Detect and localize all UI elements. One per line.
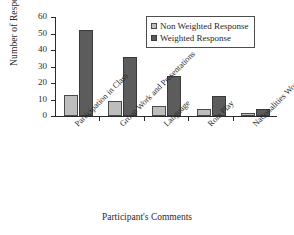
legend-entry-non-weighted-response: Non Weighted Response bbox=[151, 20, 249, 32]
y-axis-title: Number of Responses bbox=[9, 0, 19, 75]
legend-swatch-icon bbox=[151, 35, 157, 41]
x-axis-tick bbox=[188, 117, 189, 121]
bar bbox=[64, 95, 78, 116]
legend-swatch-icon bbox=[151, 23, 157, 29]
x-axis-tick bbox=[233, 117, 234, 121]
y-axis-tick-label: 10 bbox=[38, 94, 47, 105]
y-axis-tick-label: 40 bbox=[38, 44, 47, 55]
x-axis-tick bbox=[99, 117, 100, 121]
y-axis-tick-label: 0 bbox=[43, 110, 48, 121]
legend-entry-weighted-response: Weighted Response bbox=[151, 32, 249, 44]
legend-label: Weighted Response bbox=[160, 33, 231, 44]
y-axis-tick-label: 30 bbox=[38, 61, 47, 72]
x-axis-title: Participant's Comments bbox=[0, 212, 294, 222]
y-axis-tick-label: 60 bbox=[38, 11, 47, 22]
bar bbox=[152, 106, 166, 116]
bar bbox=[197, 109, 211, 116]
bar-chart-figure: Number of Responses 0102030405060 Non We… bbox=[0, 0, 294, 235]
chart-legend: Non Weighted Response Weighted Response bbox=[146, 16, 255, 48]
bar bbox=[108, 101, 122, 116]
bar bbox=[241, 113, 255, 116]
y-axis-tick-label: 20 bbox=[38, 77, 47, 88]
legend-label: Non Weighted Response bbox=[160, 21, 249, 32]
y-axis-tick-label: 50 bbox=[38, 28, 47, 39]
y-axis-tick: 0 bbox=[51, 116, 56, 117]
x-axis-tick bbox=[144, 117, 145, 121]
